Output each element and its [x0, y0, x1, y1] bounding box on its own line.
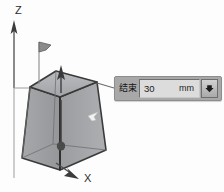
cad-viewport-screenshot: Z [0, 0, 224, 192]
parameter-label: 结束 [118, 84, 139, 93]
parameter-callout[interactable]: 结束 30 mm [114, 76, 222, 101]
parameter-value-input[interactable]: 30 [140, 84, 179, 94]
parameter-field[interactable]: 30 mm [139, 79, 200, 98]
direction-arrow-knob[interactable] [57, 141, 65, 150]
z-axis: Z [11, 4, 22, 88]
x-axis-label: X [84, 172, 92, 184]
x-axis: X [56, 163, 92, 184]
parameter-unit-label: mm [179, 84, 199, 93]
z-axis-label: Z [15, 4, 22, 16]
parameter-dropdown-button[interactable] [201, 79, 218, 98]
callout-leader-line [97, 83, 114, 88]
solid-face-left-front[interactable] [22, 87, 60, 170]
solid-face-right-front[interactable] [60, 82, 106, 170]
flag-handle-banner[interactable] [39, 42, 51, 52]
chevron-down-icon [204, 83, 215, 94]
